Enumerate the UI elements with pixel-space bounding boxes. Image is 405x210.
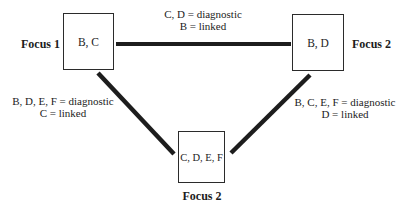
edge-label-top-line2: B = linked (133, 20, 273, 32)
caption-focus-1: Focus 1 (10, 37, 60, 52)
edge-label-left-line2: C = linked (4, 107, 122, 119)
node-box-focus-2-right: B, D (292, 14, 344, 71)
edge-label-top: C, D = diagnostic B = linked (133, 8, 273, 32)
edge-label-right-line1: B, C, E, F = diagnostic (286, 96, 404, 108)
node-box-focus-2-right-label: B, D (307, 37, 329, 49)
edge-label-right: B, C, E, F = diagnostic D = linked (286, 96, 404, 120)
edge-label-left: B, D, E, F = diagnostic C = linked (4, 95, 122, 119)
node-box-focus-1-label: B, C (78, 36, 99, 48)
node-box-focus-1: B, C (63, 13, 114, 70)
caption-focus-2-right: Focus 2 (352, 37, 402, 52)
caption-focus-2-bottom: Focus 2 (166, 189, 238, 204)
edge-label-left-line1: B, D, E, F = diagnostic (4, 95, 122, 107)
node-box-focus-2-bottom-label: C, D, E, F (180, 152, 223, 163)
node-box-focus-2-bottom: C, D, E, F (178, 131, 225, 183)
focus-triangle-diagram: B, C B, D C, D, E, F Focus 1 Focus 2 Foc… (0, 0, 405, 210)
edge-label-right-line2: D = linked (286, 108, 404, 120)
edge-label-top-line1: C, D = diagnostic (133, 8, 273, 20)
